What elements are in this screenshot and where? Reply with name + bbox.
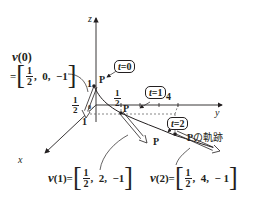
- trajectory-label: Pの軌跡: [187, 133, 223, 143]
- left-bracket: [: [16, 62, 25, 89]
- z-tick-1: 1: [87, 79, 92, 89]
- left-bracket: [: [73, 164, 82, 191]
- fraction: 1 2: [83, 168, 90, 189]
- origin-label: 0: [88, 104, 91, 110]
- p-label-t1: P: [123, 104, 129, 114]
- y-tick-4: 4: [166, 92, 171, 102]
- vector-v1: v(1)= [ 1 2 , 2, −1 ]: [48, 165, 133, 191]
- x-tick-half: 1 2: [72, 96, 79, 115]
- vector-v0-value: = [ 1 2 , 0, −1 ]: [10, 63, 76, 89]
- time-label-t0: t=0: [114, 60, 135, 73]
- x-axis-label: x: [18, 155, 22, 165]
- left-bracket: [: [175, 164, 184, 191]
- x-tick-1: 1: [82, 117, 87, 127]
- point-p-t0: [92, 84, 96, 88]
- z-axis-label: z: [88, 14, 92, 24]
- right-bracket: ]: [68, 62, 77, 89]
- p-label-t0: P: [99, 75, 105, 85]
- vector-v2: v(2)= [ 1 2 , 4, − 1 ]: [150, 165, 238, 191]
- time-label-t1: t=1: [145, 86, 166, 99]
- y-axis-label: y: [215, 108, 219, 118]
- velocity-vector-0: [82, 86, 97, 118]
- time-label-t2: t=2: [167, 117, 188, 130]
- p-label-t2: P: [153, 137, 159, 147]
- fraction: 1 2: [26, 66, 33, 87]
- fraction: 1 2: [185, 168, 192, 189]
- right-bracket: ]: [124, 164, 133, 191]
- y-tick-half: 1 2: [114, 89, 121, 108]
- point-p-t2: [173, 132, 177, 136]
- velocity-vector-1: [120, 112, 147, 143]
- right-bracket: ]: [229, 164, 238, 191]
